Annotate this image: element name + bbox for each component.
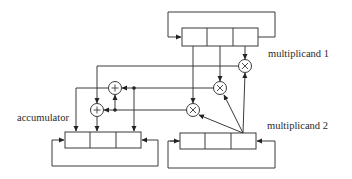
multiplicand-1-register (182, 28, 258, 46)
multiplicand-2-label: multiplicand 2 (267, 120, 328, 131)
register-body (180, 133, 256, 149)
accumulator-feedback-loop-left (52, 140, 64, 166)
multiplier-bottom (187, 104, 200, 117)
junction-dot (132, 86, 136, 90)
junction-dot (113, 108, 117, 112)
m2-to-mult-top (243, 73, 245, 133)
m2-to-mult-middle (224, 95, 243, 133)
multiply-accumulate-diagram: multiplicand 1 multiplicand 2 accumulato… (0, 0, 352, 179)
m2-to-mult-bottom (199, 115, 243, 133)
accumulator-label: accumulator (17, 112, 69, 123)
accumulator-register (65, 132, 141, 148)
adder-upper (109, 82, 122, 95)
multiplier-top (239, 60, 252, 73)
adder-lower (91, 104, 104, 117)
register-body (182, 28, 258, 46)
multiplicand-1-label: multiplicand 1 (268, 48, 329, 59)
multiplicand-2-register (180, 133, 256, 149)
multiplier-middle (214, 82, 227, 95)
register-body (65, 132, 141, 148)
